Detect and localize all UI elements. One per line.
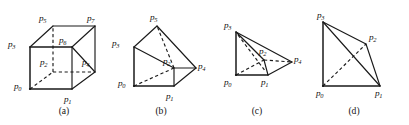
panel-caption-c: (c) — [245, 106, 269, 116]
vertex-label-b-p3: p3 — [112, 39, 120, 48]
panel-b-hidden-edges — [134, 26, 174, 86]
vertex-label-c-p1: p1 — [261, 78, 269, 87]
vertex-label-d-p0: p0 — [316, 89, 324, 98]
vertex-label-a-p6: p6 — [59, 36, 67, 45]
vertex-label-a-p0: p0 — [14, 82, 22, 91]
vertex-label-a-p3: p3 — [8, 40, 16, 49]
panel-d-hidden-edges — [323, 44, 366, 86]
vertex-label-a-p4: p4 — [82, 58, 90, 67]
vertex-dot-p0 — [29, 88, 31, 90]
vertex-label-c-p4: p4 — [294, 55, 302, 64]
vertex-label-a-p2: p2 — [40, 58, 48, 67]
vertex-label-b-p0: p0 — [118, 79, 126, 88]
panel-caption-a: (a) — [52, 106, 76, 116]
panel-caption-d: (d) — [342, 106, 366, 116]
vertex-label-c-p3: p3 — [224, 21, 232, 30]
vertex-label-b-p4: p4 — [198, 62, 206, 71]
vertex-dot-p0-b — [133, 85, 135, 87]
panel-caption-b: (b) — [149, 106, 173, 116]
vertex-label-a-p5: p5 — [39, 14, 47, 23]
vertex-label-a-p1: p1 — [64, 95, 72, 104]
vertex-label-c-p0: p0 — [224, 78, 232, 87]
vertex-label-d-p1: p1 — [375, 89, 383, 98]
vertex-label-d-p2: p2 — [369, 33, 377, 42]
vertex-label-a-p7: p7 — [87, 14, 95, 23]
vertex-dot-p0-d — [322, 85, 324, 87]
vertex-label-b-p2: p2 — [163, 57, 171, 66]
vertex-dot-p0-c — [235, 74, 237, 76]
figure-root: p0 p1 p2 p3 p4 p5 p6 p7 p0 p1 p2 — [0, 0, 409, 125]
vertex-label-b-p5: p5 — [150, 13, 158, 22]
vertex-label-b-p1: p1 — [166, 92, 174, 101]
vertex-label-d-p3: p3 — [317, 11, 325, 20]
vertex-label-c-p2: p2 — [259, 47, 267, 56]
